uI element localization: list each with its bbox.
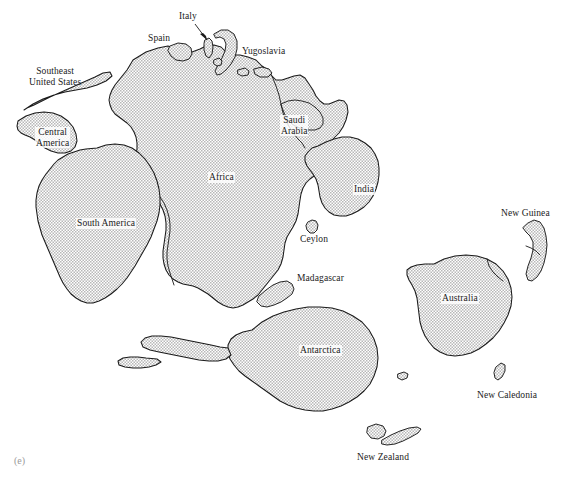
landmass-italy <box>204 38 213 58</box>
figure-caption: (e) <box>14 455 25 466</box>
map-label-spain[interactable]: Spain <box>147 33 171 44</box>
map-label-new-caledonia[interactable]: New Caledonia <box>476 390 538 401</box>
map-label-new-zealand[interactable]: New Zealand <box>356 452 410 463</box>
map-label-yugoslavia[interactable]: Yugoslavia <box>241 46 286 57</box>
pangaea-map-svg: .land{fill:url(#stipple);stroke:#1a1a1a;… <box>0 0 570 481</box>
landmass-aegean-islet-1 <box>214 58 222 66</box>
map-label-madagascar[interactable]: Madagascar <box>296 273 345 284</box>
map-label-saudi-arabia[interactable]: Saudi Arabia <box>280 115 308 136</box>
map-label-ceylon[interactable]: Ceylon <box>299 234 329 245</box>
pangaea-reconstruction-figure: .land{fill:url(#stipple);stroke:#1a1a1a;… <box>0 0 570 481</box>
map-label-southeast-united-states[interactable]: Southeast United States <box>28 66 82 87</box>
map-label-australia[interactable]: Australia <box>441 293 479 304</box>
map-label-india[interactable]: India <box>353 184 375 195</box>
map-label-italy[interactable]: Italy <box>178 11 198 22</box>
map-label-antarctica[interactable]: Antarctica <box>299 345 342 356</box>
landmass-aegean-islet-2 <box>238 68 249 76</box>
map-label-central-america[interactable]: Central America <box>35 127 70 148</box>
map-label-new-guinea[interactable]: New Guinea <box>500 208 551 219</box>
landmass-new-zealand-north <box>367 424 386 439</box>
map-label-south-america[interactable]: South America <box>76 218 136 229</box>
landmass-ceylon <box>306 220 318 233</box>
map-label-africa[interactable]: Africa <box>208 172 235 183</box>
